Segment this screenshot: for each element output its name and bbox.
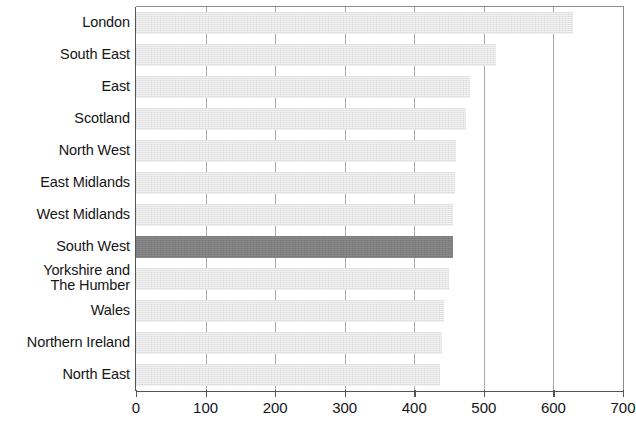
category-label: North East bbox=[0, 367, 130, 382]
category-label: West Midlands bbox=[0, 207, 130, 222]
category-label: Yorkshire and The Humber bbox=[0, 263, 130, 293]
bar bbox=[136, 364, 440, 386]
bar bbox=[136, 140, 456, 162]
x-tick-label: 200 bbox=[245, 399, 305, 416]
category-label: South East bbox=[0, 47, 130, 62]
x-tick-mark bbox=[206, 390, 207, 397]
bar bbox=[136, 172, 455, 194]
category-label: South West bbox=[0, 239, 130, 254]
category-label: London bbox=[0, 15, 130, 30]
bar bbox=[136, 108, 466, 130]
bar bbox=[136, 236, 453, 258]
bar bbox=[136, 44, 496, 66]
x-tick-mark bbox=[484, 390, 485, 397]
bar-chart: LondonSouth EastEastScotlandNorth WestEa… bbox=[0, 0, 636, 433]
x-tick-mark bbox=[623, 390, 624, 397]
x-tick-label: 700 bbox=[593, 399, 636, 416]
category-label: Northern Ireland bbox=[0, 335, 130, 350]
bar bbox=[136, 76, 470, 98]
bar bbox=[136, 268, 449, 290]
category-label: East bbox=[0, 79, 130, 94]
bar bbox=[136, 12, 573, 34]
bar bbox=[136, 204, 453, 226]
x-tick-label: 400 bbox=[384, 399, 444, 416]
x-tick-label: 500 bbox=[454, 399, 514, 416]
bar bbox=[136, 300, 444, 322]
x-tick-mark bbox=[345, 390, 346, 397]
category-label: North West bbox=[0, 143, 130, 158]
x-tick-mark bbox=[414, 390, 415, 397]
x-tick-mark bbox=[275, 390, 276, 397]
x-tick-mark bbox=[553, 390, 554, 397]
category-label: East Midlands bbox=[0, 175, 130, 190]
x-tick-label: 0 bbox=[106, 399, 166, 416]
x-tick-label: 600 bbox=[523, 399, 583, 416]
category-axis-labels: LondonSouth EastEastScotlandNorth WestEa… bbox=[0, 0, 134, 390]
bar bbox=[136, 332, 442, 354]
x-tick-label: 300 bbox=[315, 399, 375, 416]
x-tick-mark bbox=[136, 390, 137, 397]
category-label: Scotland bbox=[0, 111, 130, 126]
bar-series bbox=[136, 7, 623, 391]
x-tick-label: 100 bbox=[176, 399, 236, 416]
plot-area bbox=[136, 6, 624, 392]
category-label: Wales bbox=[0, 303, 130, 318]
